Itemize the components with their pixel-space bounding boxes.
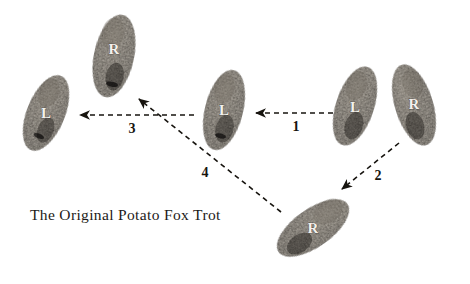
arrow-2-line bbox=[342, 143, 399, 189]
potato-middle-l: L bbox=[196, 66, 253, 155]
arrow-1: 1 bbox=[256, 113, 333, 134]
potato-group: L R bbox=[13, 11, 444, 268]
potato-letter: L bbox=[219, 102, 229, 118]
potato-right-l: L bbox=[324, 61, 385, 151]
potato-letter: R bbox=[409, 96, 420, 112]
arrow-2-label: 2 bbox=[375, 168, 382, 183]
potato-letter: L bbox=[350, 99, 360, 115]
potato-letter: R bbox=[308, 220, 319, 236]
potato-letter: R bbox=[109, 41, 120, 57]
potato-right-r: R bbox=[384, 59, 445, 150]
potato-bottom-r: R bbox=[268, 188, 359, 267]
arrow-2: 2 bbox=[342, 143, 399, 189]
arrow-3: 3 bbox=[80, 115, 194, 136]
diagram-canvas: L R bbox=[0, 0, 470, 284]
arrow-4-label: 4 bbox=[202, 165, 209, 180]
arrow-1-label: 1 bbox=[293, 119, 300, 134]
figure-caption: The Original Potato Fox Trot bbox=[30, 206, 221, 224]
potato-top-r: R bbox=[86, 11, 143, 101]
potato-left-l: L bbox=[13, 69, 78, 157]
arrow-3-label: 3 bbox=[129, 121, 136, 136]
potato-fox-trot-figure: L R bbox=[0, 0, 470, 284]
potato-letter: L bbox=[41, 105, 51, 121]
